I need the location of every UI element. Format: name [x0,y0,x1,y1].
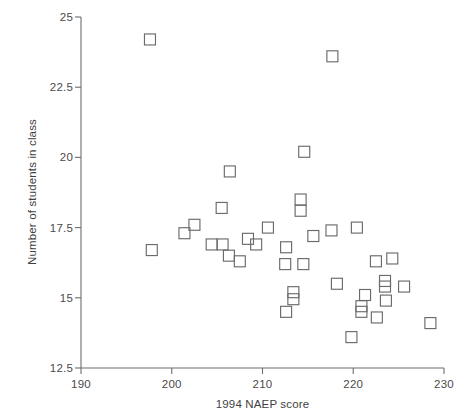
scatter-chart: 12.51517.52022.525 190200210220230 1994 … [0,0,467,418]
data-point-marker [295,205,306,216]
x-tick-marks [81,368,444,374]
y-tick-marks [75,17,81,368]
data-point-marker [298,259,309,270]
x-tick-label: 230 [434,378,454,390]
data-point-marker [387,253,398,264]
data-point-marker [179,228,190,239]
x-tick-label: 200 [162,378,182,390]
data-point-marker [360,289,371,300]
data-markers [144,34,435,343]
data-point-marker [217,239,228,250]
data-point-marker [288,294,299,305]
data-point-marker [216,202,227,213]
data-point-marker [399,281,410,292]
x-tick-label: 210 [253,378,273,390]
x-axis-title: 1994 NAEP score [216,398,309,410]
plot-area [0,0,467,418]
data-point-marker [281,306,292,317]
data-point-marker [224,166,235,177]
data-point-marker [370,256,381,267]
data-point-marker [351,222,362,233]
data-point-marker [295,194,306,205]
y-tick-label: 22.5 [28,81,73,93]
data-point-marker [425,318,436,329]
data-point-marker [144,34,155,45]
y-axis-title: Number of students in class [26,119,38,265]
data-point-marker [380,295,391,306]
data-point-marker [299,146,310,157]
data-point-marker [326,225,337,236]
data-point-marker [308,231,319,242]
data-point-marker [327,51,338,62]
y-tick-label: 12.5 [28,362,73,374]
data-point-marker [189,219,200,230]
data-point-marker [346,332,357,343]
axis-lines [81,17,444,368]
data-point-marker [281,242,292,253]
data-point-marker [371,312,382,323]
y-tick-label: 25 [28,11,73,23]
x-tick-label: 190 [71,378,91,390]
data-point-marker [288,287,299,298]
data-point-marker [146,245,157,256]
data-point-marker [223,250,234,261]
data-point-marker [206,239,217,250]
data-point-marker [262,222,273,233]
data-point-marker [331,278,342,289]
data-point-marker [280,259,291,270]
data-point-marker [234,256,245,267]
x-tick-label: 220 [343,378,363,390]
y-tick-label: 15 [28,292,73,304]
